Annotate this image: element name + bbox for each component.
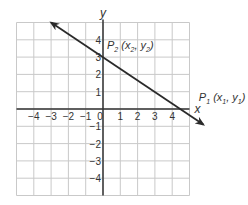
x-tick-label: 3 (152, 111, 158, 122)
y-tick-label: −4 (90, 173, 102, 184)
point-label-p2: P2 (x2, y2) (107, 39, 154, 53)
x-tick-label: 4 (169, 111, 175, 122)
y-tick-label: −1 (90, 121, 102, 132)
y-tick-label: 4 (95, 35, 101, 46)
point-label-p1: P1 (x1, y1) (199, 91, 246, 105)
x-tick-label: −4 (28, 111, 40, 122)
axes (17, 20, 190, 196)
x-tick-label: −2 (63, 111, 75, 122)
x-tick-label: 2 (135, 111, 141, 122)
y-tick-label: −2 (90, 139, 102, 150)
y-tick-label: 2 (95, 69, 101, 80)
x-axis-label: x (194, 102, 202, 116)
y-tick-label: 1 (95, 87, 101, 98)
x-tick-label: 1 (118, 111, 124, 122)
x-tick-label: −3 (45, 111, 57, 122)
point-labels: P2 (x2, y2)P1 (x1, y1) (107, 39, 246, 105)
y-tick-label: −3 (90, 156, 102, 167)
y-axis-label: y (99, 6, 107, 20)
coordinate-plane: −4−3−2−1012344321−1−2−3−4 P2 (x2, y2)P1 … (0, 0, 248, 205)
